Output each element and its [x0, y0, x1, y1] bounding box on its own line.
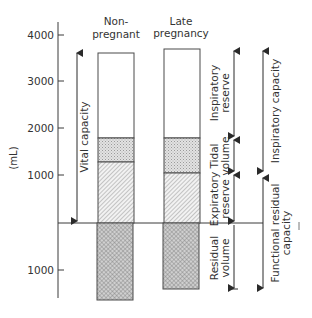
residual-label-2: volume — [219, 239, 231, 278]
tick-label-2000: 2000 — [27, 122, 54, 134]
lung-volume-diagram: 4000 3000 2000 1000 1000 (mL) Vital capa… — [0, 0, 312, 318]
segment-expiratory-reserve — [164, 173, 200, 223]
segment-residual-volume — [97, 223, 133, 300]
tidal-label-2: volume — [219, 137, 231, 176]
y-axis: 4000 3000 2000 1000 1000 (mL) — [8, 22, 64, 298]
segment-tidal-volume — [164, 138, 200, 173]
segment-tidal-volume — [98, 138, 134, 162]
category-label-nonpregnant-1: Non- — [104, 15, 129, 27]
vital-capacity-annotation: Vital capacity — [77, 53, 90, 221]
tick-label-1000: 1000 — [27, 169, 54, 181]
y-axis-unit-label: (mL) — [8, 146, 19, 169]
bar-late-pregnancy: Late pregnancy — [153, 15, 209, 289]
frc-label-2: capacity — [280, 211, 292, 255]
category-label-late-1: Late — [170, 15, 193, 27]
segment-expiratory-reserve — [98, 162, 134, 223]
segment-inspiratory-reserve — [164, 49, 200, 138]
segment-residual-volume — [163, 223, 199, 289]
category-label-late-2: pregnancy — [153, 27, 209, 39]
vital-capacity-label: Vital capacity — [78, 101, 90, 172]
category-label-nonpregnant-2: pregnant — [92, 28, 140, 40]
exp-reserve-label-2: reserve — [219, 179, 231, 218]
insp-reserve-label-2: reserve — [219, 73, 231, 112]
inner-volume-annotations: Inspiratory reserve Tidal volume Expirat… — [208, 51, 238, 289]
segment-inspiratory-reserve — [98, 53, 134, 138]
outer-capacity-annotations: Inspiratory capacity Functional residual… — [263, 51, 299, 288]
tick-label-1000-below: 1000 — [27, 264, 54, 276]
insp-capacity-label: Inspiratory capacity — [269, 59, 281, 163]
tick-label-4000: 4000 — [27, 29, 54, 41]
tick-label-3000: 3000 — [27, 75, 54, 87]
bar-nonpregnant: Non- pregnant — [92, 15, 140, 300]
